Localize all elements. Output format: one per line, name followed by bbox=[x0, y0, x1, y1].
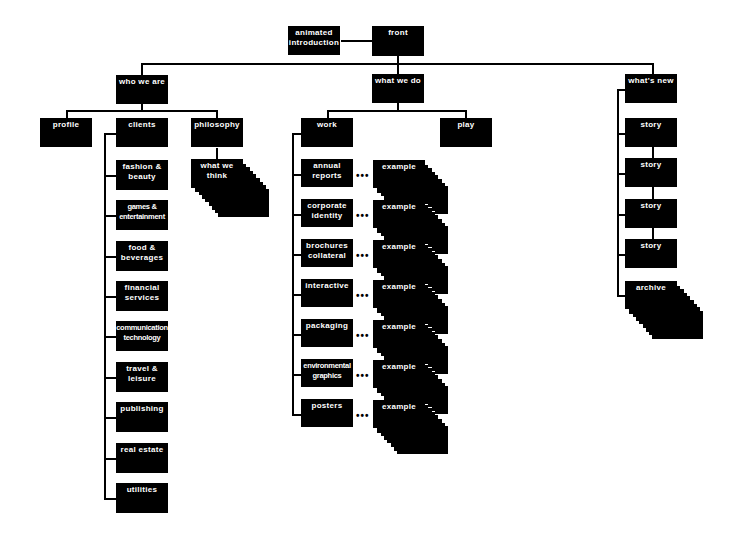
connector-story bbox=[617, 133, 625, 135]
example-node-label: example bbox=[373, 282, 425, 292]
client-real-estate-node[interactable]: real estate bbox=[116, 443, 168, 473]
work-node-label: work bbox=[301, 120, 353, 130]
animated-introduction-node-label: introduction bbox=[288, 38, 340, 48]
client-publishing-node[interactable]: publishing bbox=[116, 402, 168, 432]
connector-who-up bbox=[141, 63, 143, 75]
archive-node[interactable]: archive bbox=[625, 281, 677, 309]
client-utilities-node-label: utilities bbox=[116, 485, 168, 495]
ellipsis-connector: ••• bbox=[356, 212, 370, 220]
work-posters-node[interactable]: posters bbox=[301, 399, 353, 427]
animated-introduction-node-label: animated bbox=[288, 28, 340, 38]
section-what-s-new-node[interactable]: what's new bbox=[625, 74, 677, 103]
profile-node-label: profile bbox=[40, 120, 92, 130]
front-label: front bbox=[388, 28, 408, 37]
client-travel-leisure-node[interactable]: travel &leisure bbox=[116, 362, 168, 392]
example-node[interactable]: example bbox=[373, 320, 425, 348]
work-brochures-collateral-node-label: collateral bbox=[301, 251, 353, 261]
work-corporate-identity-node-label: corporate bbox=[301, 201, 353, 211]
ellipsis-connector: ••• bbox=[356, 252, 370, 260]
client-games-entertainment-node[interactable]: games &entertainment bbox=[116, 200, 168, 230]
what-we-think-node[interactable]: what wethink bbox=[191, 159, 243, 188]
connector-do-down bbox=[397, 103, 399, 110]
what-we-think-node-label: think bbox=[191, 171, 243, 181]
work-brochures-collateral-node-label: brochures bbox=[301, 241, 353, 251]
work-environmental-graphics-node-label: environmental bbox=[301, 361, 353, 371]
work-annual-reports-node[interactable]: annualreports bbox=[301, 159, 353, 187]
connector-intro-front bbox=[341, 40, 372, 42]
client-financial-services-node[interactable]: financialservices bbox=[116, 281, 168, 311]
client-food-beverages-node[interactable]: food &beverages bbox=[116, 241, 168, 271]
clients-node[interactable]: clients bbox=[116, 118, 168, 147]
connector-work-item bbox=[292, 214, 301, 216]
client-utilities-node[interactable]: utilities bbox=[116, 483, 168, 513]
connector-client bbox=[104, 336, 116, 338]
client-communication-technology-node-label: technology bbox=[116, 333, 168, 343]
section-what-we-do-node[interactable]: what we do bbox=[372, 74, 424, 103]
front-node[interactable]: front bbox=[372, 26, 424, 56]
ellipsis-connector: ••• bbox=[356, 412, 370, 420]
ellipsis-connector: ••• bbox=[356, 372, 370, 380]
connector-work-item bbox=[292, 374, 301, 376]
work-environmental-graphics-node[interactable]: environmentalgraphics bbox=[301, 359, 353, 387]
work-corporate-identity-node[interactable]: corporateidentity bbox=[301, 199, 353, 227]
section-what-s-new-node-label: what's new bbox=[625, 76, 677, 86]
client-communication-technology-node[interactable]: communicationtechnology bbox=[116, 321, 168, 351]
example-node[interactable]: example bbox=[373, 200, 425, 228]
example-node-label: example bbox=[373, 402, 425, 412]
connector-client bbox=[104, 175, 116, 177]
section-what-we-do-node-label: what we do bbox=[372, 76, 424, 86]
archive-node-label: archive bbox=[625, 283, 677, 293]
client-games-entertainment-node-label: games & bbox=[116, 202, 168, 212]
connector-main-bar bbox=[141, 63, 653, 65]
client-games-entertainment-node-label: entertainment bbox=[116, 212, 168, 222]
work-annual-reports-node-label: reports bbox=[301, 171, 353, 181]
philosophy-node-label: philosophy bbox=[191, 120, 243, 130]
what-we-think-node-label: what we bbox=[191, 161, 243, 171]
connector-clients-spine bbox=[104, 133, 106, 499]
connector-client bbox=[104, 417, 116, 419]
connector-do-bar bbox=[327, 110, 466, 112]
connector-clients-top bbox=[104, 133, 116, 135]
connector-work bbox=[327, 110, 329, 118]
work-packaging-node-label: packaging bbox=[301, 321, 353, 331]
section-who-we-are-node-label: who we are bbox=[116, 77, 168, 87]
example-node[interactable]: example bbox=[373, 160, 425, 188]
example-node[interactable]: example bbox=[373, 360, 425, 388]
connector-front-down bbox=[397, 56, 399, 74]
connector-client bbox=[104, 458, 116, 460]
section-who-we-are-node[interactable]: who we are bbox=[116, 75, 168, 104]
play-node[interactable]: play bbox=[440, 118, 492, 147]
example-node[interactable]: example bbox=[373, 280, 425, 308]
story-node[interactable]: story bbox=[625, 158, 677, 187]
ellipsis-connector: ••• bbox=[356, 292, 370, 300]
story-node[interactable]: story bbox=[625, 239, 677, 268]
work-brochures-collateral-node[interactable]: brochurescollateral bbox=[301, 239, 353, 267]
client-fashion-beauty-node-label: fashion & bbox=[116, 162, 168, 172]
client-communication-technology-node-label: communication bbox=[116, 323, 168, 333]
ellipsis-connector: ••• bbox=[356, 172, 370, 180]
client-travel-leisure-node-label: travel & bbox=[116, 364, 168, 374]
play-node-label: play bbox=[440, 120, 492, 130]
client-real-estate-node-label: real estate bbox=[116, 445, 168, 455]
profile-node[interactable]: profile bbox=[40, 118, 92, 147]
connector-story bbox=[617, 254, 625, 256]
work-interactive-node[interactable]: interactive bbox=[301, 279, 353, 307]
client-financial-services-node-label: services bbox=[116, 293, 168, 303]
philosophy-node[interactable]: philosophy bbox=[191, 118, 243, 147]
story-node-label: story bbox=[625, 160, 677, 170]
connector-work-top bbox=[292, 133, 301, 135]
work-packaging-node[interactable]: packaging bbox=[301, 319, 353, 347]
connector-archive bbox=[617, 295, 625, 297]
animated-introduction-node[interactable]: animatedintroduction bbox=[288, 26, 340, 55]
client-publishing-node-label: publishing bbox=[116, 404, 168, 414]
example-node[interactable]: example bbox=[373, 400, 425, 428]
story-node[interactable]: story bbox=[625, 199, 677, 228]
connector-new-top bbox=[617, 89, 625, 91]
connector-client bbox=[104, 377, 116, 379]
client-fashion-beauty-node-label: beauty bbox=[116, 172, 168, 182]
client-fashion-beauty-node[interactable]: fashion &beauty bbox=[116, 160, 168, 190]
example-node[interactable]: example bbox=[373, 240, 425, 268]
story-node[interactable]: story bbox=[625, 118, 677, 147]
work-node[interactable]: work bbox=[301, 118, 353, 147]
example-node-label: example bbox=[373, 242, 425, 252]
